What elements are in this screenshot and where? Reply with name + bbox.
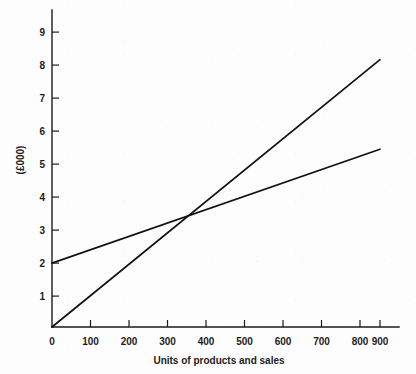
x-tick-label-0: 0 bbox=[49, 336, 55, 347]
x-tick-label-900: 900 bbox=[372, 336, 389, 347]
y-tick-label-4: 4 bbox=[39, 192, 45, 203]
y-tick-label-3: 3 bbox=[39, 225, 45, 236]
x-tick-label-100: 100 bbox=[82, 336, 99, 347]
total-cost-line bbox=[52, 149, 380, 263]
x-tick-label-600: 600 bbox=[275, 336, 292, 347]
x-tick-marks bbox=[91, 320, 381, 327]
y-tick-label-5: 5 bbox=[39, 159, 45, 170]
y-axis-title: (£000) bbox=[15, 146, 26, 175]
x-tick-label-200: 200 bbox=[121, 336, 138, 347]
x-tick-label-700: 700 bbox=[313, 336, 330, 347]
chart-canvas: 9 8 7 6 5 4 3 2 1 0 100 200 300 400 500 … bbox=[0, 0, 416, 374]
y-tick-label-1: 1 bbox=[39, 291, 45, 302]
x-axis-title: Units of products and sales bbox=[153, 355, 285, 366]
y-tick-label-6: 6 bbox=[39, 126, 45, 137]
x-tick-label-400: 400 bbox=[198, 336, 215, 347]
y-tick-label-8: 8 bbox=[39, 60, 45, 71]
x-tick-label-300: 300 bbox=[159, 336, 176, 347]
x-tick-label-500: 500 bbox=[236, 336, 253, 347]
y-tick-marks bbox=[52, 32, 59, 296]
x-tick-label-800: 800 bbox=[352, 336, 369, 347]
y-tick-label-9: 9 bbox=[39, 27, 45, 38]
x-tick-labels: 0 100 200 300 400 500 600 700 800 900 bbox=[49, 336, 389, 347]
y-tick-label-7: 7 bbox=[39, 93, 45, 104]
y-tick-labels: 9 8 7 6 5 4 3 2 1 bbox=[39, 27, 45, 302]
y-tick-label-2: 2 bbox=[39, 258, 45, 269]
breakeven-chart-figure: 9 8 7 6 5 4 3 2 1 0 100 200 300 400 500 … bbox=[0, 0, 416, 374]
sales-revenue-line bbox=[52, 60, 380, 327]
